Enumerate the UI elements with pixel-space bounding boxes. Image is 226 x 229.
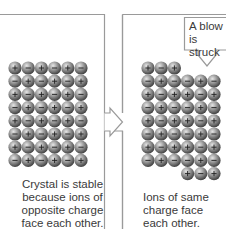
positive-ion-icon	[207, 167, 220, 180]
positive-ion-icon	[74, 101, 87, 114]
negative-ion-icon	[141, 154, 154, 167]
negative-ion-icon	[168, 127, 181, 140]
positive-ion-icon	[61, 141, 74, 154]
negative-ion-icon	[194, 88, 207, 101]
negative-ion-icon	[155, 61, 168, 74]
positive-ion-icon	[141, 61, 154, 74]
positive-ion-icon	[207, 141, 220, 154]
positive-ion-icon	[35, 88, 48, 101]
positive-ion-icon	[181, 141, 194, 154]
negative-ion-icon	[35, 101, 48, 114]
positive-ion-icon	[8, 61, 21, 74]
negative-ion-icon	[74, 61, 87, 74]
positive-ion-icon	[48, 127, 61, 140]
positive-ion-icon	[61, 61, 74, 74]
positive-ion-icon	[35, 141, 48, 154]
negative-ion-icon	[22, 141, 35, 154]
positive-ion-icon	[194, 127, 207, 140]
positive-ion-icon	[74, 127, 87, 140]
positive-ion-icon	[155, 127, 168, 140]
negative-ion-icon	[35, 127, 48, 140]
negative-ion-icon	[141, 75, 154, 88]
positive-ion-icon	[194, 101, 207, 114]
negative-ion-icon	[8, 127, 21, 140]
positive-ion-icon	[22, 154, 35, 167]
positive-ion-icon	[155, 101, 168, 114]
negative-ion-icon	[155, 114, 168, 127]
negative-ion-icon	[61, 75, 74, 88]
negative-ion-icon	[74, 114, 87, 127]
positive-ion-icon	[181, 167, 194, 180]
negative-ion-icon	[48, 141, 61, 154]
negative-ion-icon	[74, 141, 87, 154]
positive-ion-icon	[168, 114, 181, 127]
left-caption: Crystal is stable because ions of opposi…	[15, 178, 110, 229]
positive-ion-icon	[155, 154, 168, 167]
negative-ion-icon	[181, 101, 194, 114]
negative-ion-icon	[141, 101, 154, 114]
positive-ion-icon	[35, 61, 48, 74]
positive-ion-icon	[207, 88, 220, 101]
negative-ion-icon	[168, 101, 181, 114]
right-caption: Ions of same charge face each other.	[143, 191, 223, 229]
positive-ion-icon	[168, 61, 181, 74]
positive-ion-icon	[48, 75, 61, 88]
negative-ion-icon	[207, 75, 220, 88]
positive-ion-icon	[8, 114, 21, 127]
positive-ion-icon	[74, 75, 87, 88]
negative-ion-icon	[207, 127, 220, 140]
negative-ion-icon	[35, 75, 48, 88]
positive-ion-icon	[168, 141, 181, 154]
positive-ion-icon	[22, 101, 35, 114]
positive-ion-icon	[207, 114, 220, 127]
positive-ion-icon	[181, 114, 194, 127]
positive-ion-icon	[74, 154, 87, 167]
negative-ion-icon	[35, 154, 48, 167]
negative-ion-icon	[48, 88, 61, 101]
positive-ion-icon	[35, 114, 48, 127]
negative-ion-icon	[194, 141, 207, 154]
negative-ion-icon	[181, 75, 194, 88]
negative-ion-icon	[194, 114, 207, 127]
positive-ion-icon	[155, 75, 168, 88]
positive-ion-icon	[194, 154, 207, 167]
negative-ion-icon	[61, 154, 74, 167]
positive-ion-icon	[141, 141, 154, 154]
negative-ion-icon	[61, 127, 74, 140]
positive-ion-icon	[61, 114, 74, 127]
positive-ion-icon	[48, 154, 61, 167]
callout-label: A blow is struck	[189, 20, 226, 59]
positive-ion-icon	[141, 114, 154, 127]
negative-ion-icon	[207, 154, 220, 167]
negative-ion-icon	[141, 127, 154, 140]
negative-ion-icon	[181, 154, 194, 167]
negative-ion-icon	[48, 114, 61, 127]
positive-ion-icon	[141, 88, 154, 101]
positive-ion-icon	[22, 75, 35, 88]
positive-ion-icon	[61, 88, 74, 101]
positive-ion-icon	[168, 88, 181, 101]
negative-ion-icon	[155, 141, 168, 154]
negative-ion-icon	[8, 101, 21, 114]
positive-ion-icon	[194, 75, 207, 88]
negative-ion-icon	[22, 88, 35, 101]
negative-ion-icon	[22, 61, 35, 74]
left-ion-grid	[8, 61, 87, 167]
positive-ion-icon	[22, 127, 35, 140]
positive-ion-icon	[8, 141, 21, 154]
right-ion-grid	[141, 61, 220, 180]
negative-ion-icon	[168, 154, 181, 167]
negative-ion-icon	[8, 154, 21, 167]
negative-ion-icon	[22, 114, 35, 127]
negative-ion-icon	[8, 75, 21, 88]
positive-ion-icon	[181, 88, 194, 101]
negative-ion-icon	[181, 127, 194, 140]
negative-ion-icon	[207, 101, 220, 114]
negative-ion-icon	[155, 88, 168, 101]
negative-ion-icon	[168, 75, 181, 88]
negative-ion-icon	[48, 61, 61, 74]
negative-ion-icon	[74, 88, 87, 101]
negative-ion-icon	[61, 101, 74, 114]
positive-ion-icon	[48, 101, 61, 114]
negative-ion-icon	[194, 167, 207, 180]
